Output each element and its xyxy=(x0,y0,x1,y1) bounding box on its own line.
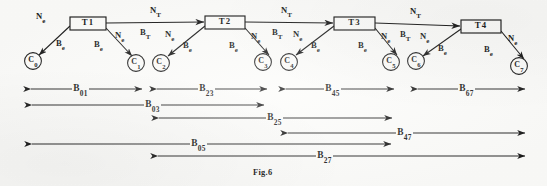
span-arrow-label-b05: B05 xyxy=(190,139,207,148)
trunk-link-t3-t4 xyxy=(375,23,460,26)
branch-node-label-t2-c2: Ne xyxy=(165,30,175,39)
circle-node-label-c3: C3 xyxy=(255,57,272,65)
trunk-node-label-t2-t3: NT xyxy=(281,6,292,15)
branch-bandwidth-label-t4-c7: Be xyxy=(484,45,493,54)
branch-bandwidth-label-t1-c1: Be xyxy=(94,40,103,49)
span-arrow-label-b03: B03 xyxy=(144,100,161,109)
branch-bandwidth-label-t2-c2: Be xyxy=(183,41,192,50)
branch-node-label-t3-c5: Ne xyxy=(381,32,391,41)
figure-caption-text: Fig.6 xyxy=(253,168,272,177)
circle-node-label-c1: C1 xyxy=(128,58,145,66)
branch-node-label-t4-c6: Ne xyxy=(420,32,430,41)
transformer-label-t4: T4 xyxy=(461,21,501,30)
circle-node-label-c4: C4 xyxy=(281,57,298,65)
span-arrow-label-b47: B47 xyxy=(396,128,413,137)
trunk-bandwidth-label-t2-t3: BT xyxy=(272,28,283,37)
circle-node-label-c6: C6 xyxy=(408,56,425,64)
branch-node-label-t4-c7: Ne xyxy=(508,34,518,43)
branch-node-label-t3-c4: Ne xyxy=(293,30,303,39)
branch-node-label-t2-c3: Ne xyxy=(251,32,261,41)
circle-node-label-c7: C7 xyxy=(511,61,528,69)
circle-node-label-c5: C5 xyxy=(383,57,400,65)
trunk-node-label-t1-t2: NT xyxy=(150,6,161,15)
transformer-label-t3: T3 xyxy=(334,18,375,27)
span-arrow-label-b01: B01 xyxy=(72,84,89,93)
branch-bandwidth-label-t1-c0: Be xyxy=(56,39,65,48)
span-arrow-label-b23: B23 xyxy=(198,84,215,93)
figure-canvas: NTBTNTBTNTBTNeBeNeBeNeBeNeBeNeBeNeBeNeBe… xyxy=(0,0,547,186)
trunk-bandwidth-label-t3-t4: BT xyxy=(400,30,411,39)
branch-link-t1-c0 xyxy=(39,26,70,55)
figure-caption: Fig.6 xyxy=(253,168,272,177)
transformer-label-t1: T1 xyxy=(70,18,106,27)
transformer-label-t2: T2 xyxy=(205,17,245,26)
branch-node-label-t1-c0: Ne xyxy=(36,12,46,21)
span-arrow-label-b67: B67 xyxy=(458,84,475,93)
trunk-link-t2-t3 xyxy=(245,22,333,23)
branch-bandwidth-label-t4-c6: Be xyxy=(438,44,447,53)
branch-bandwidth-label-t3-c4: Be xyxy=(311,41,320,50)
trunk-bandwidth-label-t1-t2: BT xyxy=(140,28,151,37)
span-arrow-label-b25: B25 xyxy=(266,113,283,122)
circle-node-label-c0: C0 xyxy=(25,56,42,64)
trunk-link-t1-t2 xyxy=(106,22,204,23)
branch-bandwidth-label-t3-c5: Be xyxy=(358,41,367,50)
branch-node-label-t1-c1: Ne xyxy=(115,31,125,40)
circle-node-label-c2: C2 xyxy=(153,58,170,66)
span-arrow-label-b27: B27 xyxy=(316,151,333,160)
span-arrow-label-b45: B45 xyxy=(324,84,341,93)
trunk-node-label-t3-t4: NT xyxy=(410,7,421,16)
branch-bandwidth-label-t2-c3: Be xyxy=(229,41,238,50)
